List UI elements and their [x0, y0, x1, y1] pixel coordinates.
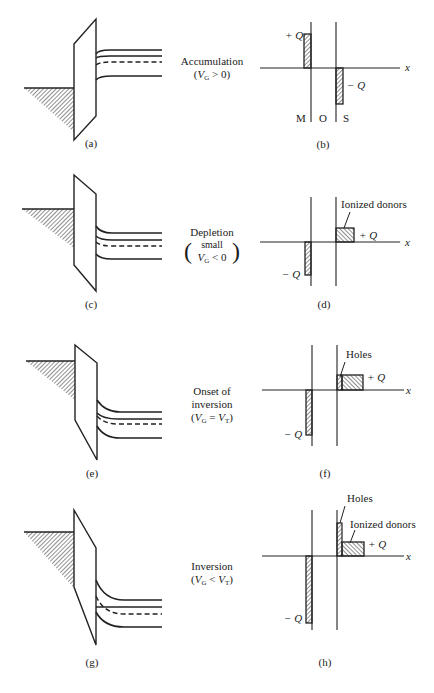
caption-c: (c) — [76, 298, 106, 310]
charge-diagram-depletion — [260, 197, 400, 286]
x-axis-label-d: x — [405, 236, 410, 248]
holes-label-f: Holes — [346, 348, 372, 360]
x-axis-label-h: x — [406, 550, 411, 562]
caption-b: (b) — [308, 138, 338, 150]
plus-q-label-b: + Q — [285, 29, 303, 41]
ionized-donors-label-d: Ionized donors — [341, 198, 407, 210]
caption-h: (h) — [310, 656, 340, 668]
plus-q-label-f: + Q — [367, 371, 385, 383]
x-axis-label-f: x — [406, 384, 411, 396]
state-label-inversion: Inversion (VG < VT) — [172, 560, 252, 590]
caption-a: (a) — [76, 137, 106, 149]
caption-f: (f) — [310, 467, 340, 479]
minus-q-label-b: − Q — [347, 79, 365, 91]
band-diagram-inversion — [24, 510, 162, 645]
caption-e: (e) — [77, 467, 107, 479]
plus-q-label-d: + Q — [359, 229, 377, 241]
minus-q-label-f: − Q — [284, 428, 302, 440]
caption-d: (d) — [309, 298, 339, 310]
state-label-depletion: Depletion ( ) small VG < 0 — [180, 226, 244, 267]
semiconductor-label: S — [343, 112, 349, 124]
band-diagram-depletion — [22, 175, 162, 291]
holes-label-h: Holes — [347, 492, 373, 504]
caption-g: (g) — [77, 656, 107, 668]
metal-label: M — [296, 112, 306, 124]
band-diagram-accumulation — [24, 19, 162, 140]
state-label-accumulation: Accumulation (VG > 0) — [172, 55, 252, 85]
minus-q-label-d: − Q — [282, 268, 300, 280]
oxide-label: O — [319, 112, 327, 124]
state-label-onset-of-inversion: Onset of inversion (VG = VT) — [172, 385, 252, 428]
minus-q-label-h: − Q — [284, 612, 302, 624]
plus-q-label-h: + Q — [368, 538, 386, 550]
band-diagram-onset-of-inversion — [26, 345, 162, 460]
ionized-donors-label-h: Ionized donors — [350, 518, 416, 530]
charge-diagram-accumulation — [260, 22, 400, 122]
x-axis-label-b: x — [405, 61, 410, 73]
